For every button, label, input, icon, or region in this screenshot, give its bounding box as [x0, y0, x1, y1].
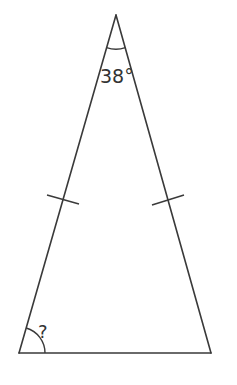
- apex-angle-arc: [107, 48, 126, 50]
- left-side-tick-mark: [47, 195, 79, 204]
- base-angle-label: ?: [38, 321, 48, 342]
- right-side-tick-mark: [152, 195, 184, 205]
- apex-angle-label: 38°: [100, 65, 134, 87]
- isosceles-triangle-diagram: 38° ?: [0, 0, 237, 385]
